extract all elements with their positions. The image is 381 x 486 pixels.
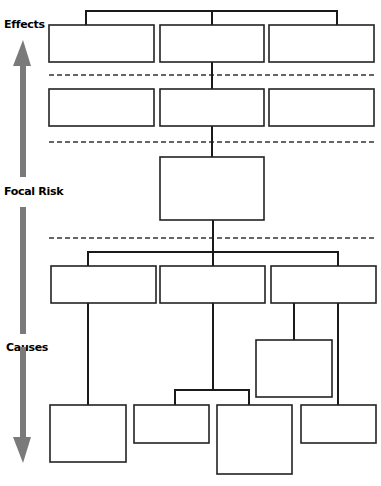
effect-box-1-1 bbox=[49, 25, 154, 62]
cause-box-1-1 bbox=[51, 266, 156, 303]
causes-arrow-icon bbox=[13, 207, 31, 463]
focal-risk-box bbox=[160, 157, 264, 220]
cause-box-3-2 bbox=[134, 405, 209, 443]
cause-box-2-1 bbox=[256, 340, 332, 397]
cause-box-1-3 bbox=[271, 266, 376, 303]
effect-box-2-1 bbox=[49, 89, 154, 126]
effect-box-1-3 bbox=[269, 25, 374, 62]
effect-box-1-2 bbox=[160, 25, 264, 62]
effect-box-2-2 bbox=[160, 89, 264, 126]
effects-arrow-icon bbox=[13, 40, 31, 177]
cause-box-3-1 bbox=[50, 405, 126, 462]
effect-box-2-3 bbox=[269, 89, 374, 126]
cause-box-1-2 bbox=[160, 266, 265, 303]
risk-tree-diagram bbox=[0, 0, 381, 486]
cause-box-3-3 bbox=[217, 405, 292, 474]
cause-box-3-4 bbox=[301, 405, 376, 443]
